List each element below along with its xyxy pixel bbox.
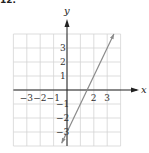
y-axis-label: y <box>64 5 70 16</box>
y-tick-label: 2 <box>60 58 66 67</box>
y-tick-label: −3 <box>56 128 69 137</box>
x-tick-label: 3 <box>104 94 110 103</box>
y-tick-label: 3 <box>60 44 66 53</box>
y-tick-label: −1 <box>56 100 69 109</box>
graph-canvas <box>0 0 149 153</box>
x-tick-label: −3 <box>20 94 33 103</box>
y-tick-label: −2 <box>56 114 69 123</box>
x-tick-label: −2 <box>33 94 46 103</box>
x-axis-label: x <box>141 84 147 95</box>
y-tick-label: 1 <box>60 72 66 81</box>
axes <box>13 19 139 146</box>
plot-line <box>62 34 114 143</box>
x-tick-label: 2 <box>91 94 97 103</box>
